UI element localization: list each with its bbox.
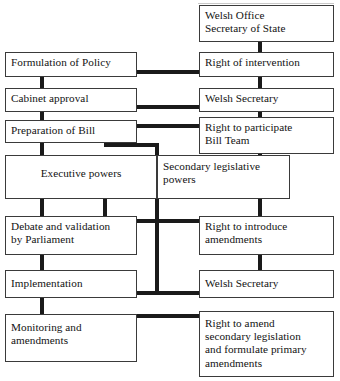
box-right-of-intervention[interactable]: Right of intervention <box>199 52 334 77</box>
box-monitoring-and-amendments[interactable]: Monitoring and amendments <box>5 314 137 362</box>
box-welsh-secretary-bottom[interactable]: Welsh Secretary <box>199 270 334 298</box>
connector-implementation-to-monitoring <box>40 298 44 315</box>
connector-debate-to-implementation <box>40 255 44 270</box>
box-formulation-of-policy[interactable]: Formulation of Policy <box>5 52 137 77</box>
scan-artifact-line <box>198 3 334 4</box>
connector-implementation-to-welsh-secretary <box>132 291 202 295</box>
connector-debate-to-right-to-introduce <box>132 219 202 223</box>
box-preparation-of-bill[interactable]: Preparation of Bill <box>5 120 137 143</box>
connector-preparation-to-trunk <box>104 143 159 147</box>
connector-right-of-intervention-to-formulation <box>132 70 202 74</box>
connector-monitoring-to-right-to-amend <box>132 314 202 318</box>
box-implementation[interactable]: Implementation <box>5 270 137 298</box>
box-debate-and-validation-by-parliament[interactable]: Debate and validation by Parliament <box>5 216 137 255</box>
box-executive-powers[interactable]: Executive powers <box>5 155 157 199</box>
connector-welsh-secretary-to-cabinet <box>132 105 202 109</box>
box-right-to-participate-bill-team[interactable]: Right to participate Bill Team <box>199 117 334 154</box>
connector-preparation-to-bill-team <box>132 124 202 128</box>
connector-right-to-introduce-to-welsh-secretary-bottom <box>258 255 262 270</box>
connector-executive-powers-to-debate-left <box>40 198 44 218</box>
flowchart-diagram: Welsh Office Secretary of State Formulat… <box>0 0 340 381</box>
box-welsh-office-secretary-of-state[interactable]: Welsh Office Secretary of State <box>199 5 334 42</box>
connector-secondary-powers-to-right-to-introduce <box>258 198 262 218</box>
box-secondary-legislative-powers[interactable]: Secondary legislative powers <box>157 155 290 199</box>
box-cabinet-approval[interactable]: Cabinet approval <box>5 88 137 112</box>
connector-executive-powers-to-debate-right <box>103 198 107 218</box>
connector-preparation-to-executive-powers <box>40 142 44 155</box>
box-welsh-secretary-top[interactable]: Welsh Secretary <box>199 88 334 112</box>
box-right-to-amend-secondary-legislation[interactable]: Right to amend secondary legislation and… <box>199 311 334 377</box>
box-right-to-introduce-amendments[interactable]: Right to introduce amendments <box>199 216 334 255</box>
